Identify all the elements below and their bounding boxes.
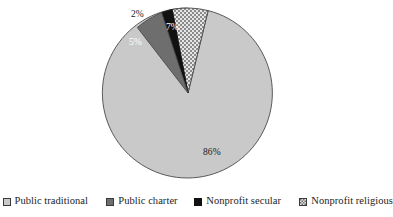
legend-item-public-traditional[interactable]: Public traditional bbox=[3, 186, 89, 217]
legend-label-public-traditional: Public traditional bbox=[15, 196, 89, 207]
legend-label-nonprofit-religious: Nonprofit religious bbox=[311, 196, 393, 207]
chart-legend: Public traditional Public charter Nonpro… bbox=[0, 186, 393, 217]
legend-item-public-charter[interactable]: Public charter bbox=[106, 186, 177, 217]
legend-label-public-charter: Public charter bbox=[118, 196, 177, 207]
pie-chart-figure: 2% 5% 7% 86% Public traditional Public c… bbox=[0, 0, 393, 217]
pie-graphic bbox=[0, 0, 393, 186]
pie-plot-area: 2% 5% 7% 86% bbox=[0, 0, 393, 186]
legend-item-nonprofit-secular[interactable]: Nonprofit secular bbox=[194, 186, 281, 217]
slice-value-public-charter: 5% bbox=[129, 38, 142, 48]
slice-value-nonprofit-secular: 2% bbox=[131, 10, 144, 20]
legend-item-nonprofit-religious[interactable]: Nonprofit religious bbox=[299, 186, 393, 217]
legend-swatch-nonprofit-secular-icon bbox=[194, 198, 202, 206]
slice-value-public-traditional: 86% bbox=[203, 148, 221, 158]
legend-swatch-public-traditional-icon bbox=[3, 198, 11, 206]
legend-swatch-nonprofit-religious-icon bbox=[299, 198, 307, 206]
legend-swatch-public-charter-icon bbox=[106, 198, 114, 206]
legend-label-nonprofit-secular: Nonprofit secular bbox=[206, 196, 281, 207]
slice-value-nonprofit-religious: 7% bbox=[166, 23, 179, 33]
